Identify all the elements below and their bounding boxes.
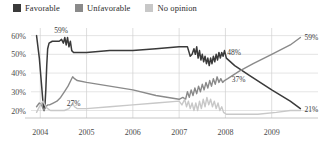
legend-label-favorable: Favorable xyxy=(25,3,60,13)
data-label: 59% xyxy=(54,26,68,35)
line-chart-svg: 20%30%40%50%60% 200420052006200720082009… xyxy=(0,22,325,146)
data-label: 48% xyxy=(227,48,241,57)
y-axis-tick-label: 40% xyxy=(11,69,26,78)
chart-container: Favorable Unfavorable No opinion 20%30%4… xyxy=(0,0,325,146)
x-axis-ticks: 200420052006200720082009 xyxy=(32,128,279,137)
data-labels: 59%27%48%37%59%21% xyxy=(54,26,318,113)
y-axis-tick-label: 50% xyxy=(11,50,26,59)
legend-item-no-opinion[interactable]: No opinion xyxy=(145,3,197,13)
y-axis-ticks: 20%30%40%50%60% xyxy=(11,32,26,116)
x-axis-tick-label: 2004 xyxy=(32,128,48,137)
x-axis-tick-label: 2007 xyxy=(171,128,187,137)
x-axis-tick-label: 2006 xyxy=(125,128,141,137)
plot-area: 20%30%40%50%60% 200420052006200720082009… xyxy=(0,22,325,146)
data-label: 27% xyxy=(67,99,81,108)
x-axis-tick-label: 2008 xyxy=(217,128,233,137)
legend-swatch-icon xyxy=(75,4,83,12)
chart-legend: Favorable Unfavorable No opinion xyxy=(13,3,212,13)
data-label: 21% xyxy=(304,105,318,114)
legend-label-no-opinion: No opinion xyxy=(157,3,197,13)
x-axis-tick-label: 2005 xyxy=(79,128,95,137)
x-axis-tick-label: 2009 xyxy=(264,128,280,137)
legend-item-unfavorable[interactable]: Unfavorable xyxy=(75,3,131,13)
legend-swatch-icon xyxy=(145,4,153,12)
y-axis-tick-label: 30% xyxy=(11,88,26,97)
data-label: 37% xyxy=(232,75,246,84)
legend-swatch-icon xyxy=(13,4,21,12)
data-label: 59% xyxy=(304,33,318,42)
legend-item-favorable[interactable]: Favorable xyxy=(13,3,60,13)
y-axis-tick-label: 60% xyxy=(11,32,26,41)
y-axis-tick-label: 20% xyxy=(11,107,26,116)
legend-label-unfavorable: Unfavorable xyxy=(87,3,131,13)
